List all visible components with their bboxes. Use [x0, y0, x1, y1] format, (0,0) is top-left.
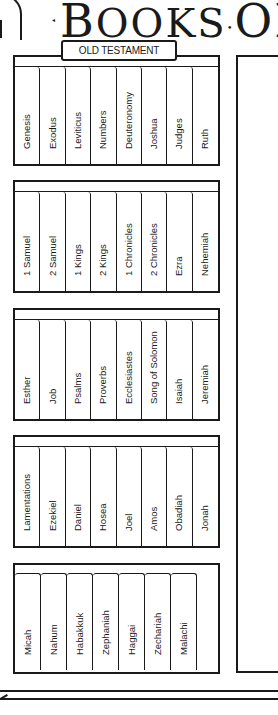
book-label: Jeremiah [201, 364, 211, 403]
book-spine[interactable]: Nahum [41, 573, 67, 670]
book-label: 2 Chronicles [149, 223, 159, 276]
book-label: Ecclesiastes [124, 351, 134, 404]
book-label: Numbers [99, 110, 109, 149]
section-label-old-testament: OLD TESTAMENT [61, 40, 177, 61]
book-label: Daniel [73, 504, 83, 531]
book-label: Deuteronomy [124, 91, 134, 148]
book-label: Zechariah [153, 612, 163, 654]
book-spine[interactable]: Joshua [142, 67, 167, 164]
book-spine[interactable]: Jeremiah [193, 320, 218, 419]
book-spine[interactable]: Haggai [119, 573, 145, 670]
book-label: 1 Chronicles [124, 223, 134, 276]
book-spine[interactable]: Jonah [193, 447, 218, 546]
book-label: Obadiah [175, 495, 185, 531]
bottom-rule-upper [0, 690, 278, 692]
shelf-top-band [15, 182, 218, 192]
bookshelf-5: Micah Nahum Habakkuk Zephaniah Haggai Ze… [13, 563, 220, 674]
book-spine[interactable]: 2 Samuel [40, 192, 65, 291]
book-label: Ezekiel [48, 500, 58, 531]
book-spine[interactable]: Obadiah [167, 447, 192, 546]
book-spine[interactable]: Ezekiel [40, 447, 65, 546]
title-flourish-icon [0, 0, 22, 40]
book-spine[interactable]: Zephaniah [93, 573, 119, 670]
book-spine[interactable]: Deuteronomy [117, 67, 142, 164]
book-label: Hosea [99, 503, 109, 530]
book-label: Song of Solomon [149, 331, 159, 404]
book-spine[interactable]: Micah [15, 573, 41, 670]
book-spine[interactable]: Zechariah [145, 573, 171, 670]
book-spine[interactable]: Song of Solomon [142, 320, 167, 419]
book-label: 2 Samuel [48, 235, 58, 275]
book-spine[interactable]: Leviticus [66, 67, 91, 164]
book-label: Joel [124, 513, 134, 530]
book-spine[interactable]: Habakkuk [67, 573, 93, 670]
book-spine[interactable]: Ruth [193, 67, 218, 164]
shelf-top-band [15, 310, 218, 320]
book-label: Malachi [179, 622, 189, 655]
bottom-rule-lower [0, 698, 278, 700]
book-spine[interactable]: Ezra [167, 192, 192, 291]
book-label: Amos [149, 506, 159, 530]
book-label: Psalms [73, 372, 83, 403]
title-separator: • [227, 22, 235, 33]
book-label: Job [48, 388, 58, 403]
book-spine[interactable]: 1 Chronicles [117, 192, 142, 291]
book-spine[interactable]: Amos [142, 447, 167, 546]
bookshelf-4: Lamentations Ezekiel Daniel Hosea Joel A… [13, 435, 220, 548]
book-label: Jonah [201, 505, 211, 531]
book-spine[interactable]: Joel [117, 447, 142, 546]
title-word-of: OF [235, 0, 278, 48]
book-spine[interactable]: Hosea [91, 447, 116, 546]
book-spine[interactable]: Lamentations [15, 447, 40, 546]
shelf-top-band [15, 565, 218, 573]
book-spine[interactable]: Job [40, 320, 65, 419]
book-spine[interactable]: Numbers [91, 67, 116, 164]
shelf-top-band [15, 437, 218, 447]
book-label: Zephaniah [101, 610, 111, 655]
book-label: Genesis [22, 114, 32, 149]
book-label: Habakkuk [75, 612, 85, 654]
book-label: Esther [22, 376, 32, 403]
bookshelf-2: 1 Samuel 2 Samuel 1 Kings 2 Kings 1 Chro… [13, 180, 220, 293]
book-spine[interactable]: Judges [167, 67, 192, 164]
book-label: Nahum [49, 624, 59, 655]
book-spine[interactable]: Genesis [15, 67, 40, 164]
title-ornament-icon: ◂ [52, 16, 55, 23]
title-flourish-stem [0, 20, 2, 38]
book-label: Ruth [201, 128, 211, 148]
book-label: Leviticus [73, 112, 83, 149]
bookshelf-3: Esther Job Psalms Proverbs Ecclesiastes … [13, 308, 220, 421]
book-spine[interactable]: Esther [15, 320, 40, 419]
book-label: Proverbs [99, 365, 109, 403]
book-spine[interactable]: Psalms [66, 320, 91, 419]
book-label: Judges [175, 118, 185, 149]
book-label: Joshua [149, 118, 159, 149]
book-spine[interactable]: 2 Kings [91, 192, 116, 291]
book-spine[interactable]: Daniel [66, 447, 91, 546]
book-spine[interactable]: Nehemiah [193, 192, 218, 291]
book-spine[interactable]: 1 Samuel [15, 192, 40, 291]
book-spine[interactable]: 1 Kings [66, 192, 91, 291]
book-label: Ezra [175, 256, 185, 276]
book-label: 1 Kings [73, 244, 83, 276]
book-label: Exodus [48, 117, 58, 149]
book-label: Isaiah [175, 378, 185, 403]
book-spine[interactable]: Exodus [40, 67, 65, 164]
book-spine[interactable]: Proverbs [91, 320, 116, 419]
book-spine[interactable]: Ecclesiastes [117, 320, 142, 419]
book-label: Haggai [127, 624, 137, 654]
book-spine[interactable]: Malachi [171, 573, 197, 670]
book-label: Micah [23, 629, 33, 654]
book-label: 2 Kings [99, 244, 109, 276]
book-spine[interactable]: 2 Chronicles [142, 192, 167, 291]
book-label: Lamentations [22, 473, 32, 530]
right-notes-panel [236, 55, 278, 673]
book-label: 1 Samuel [22, 235, 32, 275]
book-spine[interactable]: Isaiah [167, 320, 192, 419]
bookshelf-1: Genesis Exodus Leviticus Numbers Deutero… [13, 55, 220, 166]
book-label: Nehemiah [201, 232, 211, 275]
